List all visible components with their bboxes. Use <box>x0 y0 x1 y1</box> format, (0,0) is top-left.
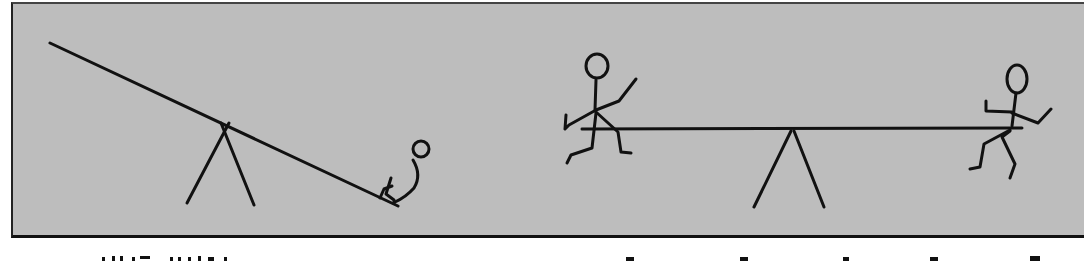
stick-figure-right <box>970 65 1051 178</box>
leg-back <box>567 113 596 163</box>
tilted-plank <box>50 43 398 206</box>
arm-back <box>565 110 596 129</box>
leg-front <box>596 112 631 153</box>
level-plank <box>582 128 1022 129</box>
fulcrum-left-leg <box>187 123 229 203</box>
arm-forward <box>1012 109 1051 123</box>
child-head <box>413 141 429 157</box>
fulcrum-right-leg <box>794 131 824 207</box>
torso <box>1012 93 1016 126</box>
seesaw-illustration <box>0 0 1084 261</box>
leg-back <box>1002 131 1015 178</box>
tilted-seesaw <box>50 43 398 206</box>
stick-figure-left <box>565 54 636 163</box>
seated-child-figure <box>380 141 429 203</box>
fulcrum-left-leg <box>754 131 791 207</box>
arm-raised <box>596 79 636 110</box>
arm-back <box>986 101 1012 112</box>
caption-strip-truncated <box>0 244 1084 261</box>
balanced-seesaw <box>582 128 1022 207</box>
torso <box>595 80 596 110</box>
cut-off-text-glyphs <box>0 244 1084 261</box>
head <box>586 54 608 78</box>
child-body <box>395 160 418 202</box>
head <box>1007 65 1027 93</box>
